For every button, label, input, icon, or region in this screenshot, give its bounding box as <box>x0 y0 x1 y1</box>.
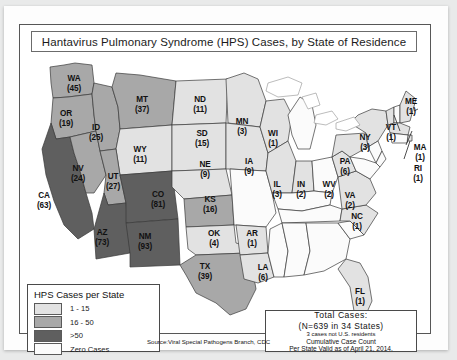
map-legend: HPS Cases per State 1 - 1516 - 50>50Zero… <box>27 284 160 352</box>
legend-label: Zero Cases <box>70 345 109 354</box>
state-label-sd: SD(15) <box>188 129 216 148</box>
legend-item: Zero Cases <box>34 344 153 355</box>
state-case-count: (1) <box>397 107 425 117</box>
state-label-az: AZ(73) <box>88 228 116 247</box>
state-case-count: (1) <box>259 139 287 149</box>
state-label-ar: AR(1) <box>238 229 266 248</box>
source-note: Source:Viral Special Pathogens Branch, C… <box>147 338 270 345</box>
state-code: CA <box>38 191 50 200</box>
state-case-count: (3) <box>228 127 256 137</box>
state-label-ia: IA(9) <box>235 157 263 176</box>
state-case-count: (1) <box>343 222 371 232</box>
totals-valid-date: Per State Valid as of April 21, 2014. <box>289 345 393 352</box>
state-code: VT <box>386 123 396 132</box>
totals-title: Total Cases: <box>314 310 367 320</box>
state-label-ny: NY(3) <box>351 133 379 152</box>
state-code: MA <box>414 143 427 152</box>
state-label-ca: CA(63) <box>30 191 58 210</box>
state-case-count: (6) <box>249 273 277 283</box>
legend-swatch <box>34 303 62 315</box>
state-case-count: (1) <box>404 174 432 184</box>
state-code: WY <box>134 145 147 154</box>
state-code: RI <box>414 164 422 173</box>
totals-count: (N=639 in 34 States) <box>298 321 383 331</box>
state-code: FL <box>355 287 365 296</box>
state-case-count: (63) <box>30 201 58 211</box>
state-code: NM <box>139 232 152 241</box>
legend-item: 1 - 15 <box>34 303 153 314</box>
legend-title: HPS Cases per State <box>34 289 153 300</box>
state-case-count: (2) <box>336 201 364 211</box>
legend-label: 16 - 50 <box>70 318 94 327</box>
state-case-count: (1) <box>406 153 434 163</box>
state-code: CO <box>152 190 164 199</box>
state-case-count: (4) <box>200 239 228 249</box>
state-label-nv: NV(24) <box>64 164 92 183</box>
map-title-box: Hantavirus Pulmonary Syndrome (HPS) Case… <box>31 31 417 52</box>
state-case-count: (39) <box>191 272 219 282</box>
state-code: WV <box>323 180 336 189</box>
state-case-count: (19) <box>52 119 80 129</box>
legend-item: >50 <box>34 330 153 341</box>
legend-swatch <box>34 316 62 328</box>
state-code: ND <box>194 95 206 104</box>
state-code: NE <box>199 160 210 169</box>
state-code: IA <box>245 157 253 166</box>
state-label-wi: WI(1) <box>259 129 287 148</box>
state-code: NC <box>351 212 363 221</box>
state-label-vt: VT(1) <box>377 123 405 142</box>
great-lake-1 <box>266 77 302 97</box>
state-code: AR <box>246 229 258 238</box>
state-code: UT <box>108 172 119 181</box>
state-code: NY <box>359 133 370 142</box>
state-case-count: (27) <box>99 182 127 192</box>
legend-rows: 1 - 1516 - 50>50Zero Cases <box>34 303 153 355</box>
state-case-count: (9) <box>235 167 263 177</box>
state-label-ks: KS(16) <box>196 195 224 214</box>
state-label-me: ME(1) <box>397 97 425 116</box>
state-case-count: (2) <box>287 190 315 200</box>
state-label-id: ID(25) <box>82 123 110 142</box>
state-case-count: (93) <box>131 242 159 252</box>
state-case-count: (45) <box>60 84 88 94</box>
state-code: NV <box>72 164 83 173</box>
legend-label: 1 - 15 <box>70 304 89 313</box>
state-case-count: (11) <box>186 105 214 115</box>
totals-box: Total Cases: (N=639 in 34 States) 3 case… <box>265 310 417 352</box>
state-case-count: (81) <box>144 200 172 210</box>
totals-note: 3 cases not U.S. residents <box>307 331 376 337</box>
state-label-tx: TX(39) <box>191 262 219 281</box>
state-label-nm: NM(93) <box>131 232 159 251</box>
state-code: LA <box>258 263 269 272</box>
state-code: WA <box>68 74 81 83</box>
state-code: ME <box>405 97 417 106</box>
state-case-count: (1) <box>377 133 405 143</box>
state-label-va: VA(2) <box>336 191 364 210</box>
state-code: PA <box>340 157 351 166</box>
state-case-count: (9) <box>191 170 219 180</box>
state-case-count: (37) <box>128 105 156 115</box>
state-label-pa: PA(6) <box>331 157 359 176</box>
state-code: SD <box>196 129 207 138</box>
state-case-count: (24) <box>64 174 92 184</box>
state-code: IL <box>273 180 280 189</box>
totals-cumulative: Cumulative Case Count <box>306 338 376 345</box>
state-case-count: (6) <box>331 167 359 177</box>
state-case-count: (25) <box>82 133 110 143</box>
state-case-count: (3) <box>351 143 379 153</box>
legend-swatch <box>34 330 62 342</box>
state-code: OK <box>208 229 220 238</box>
legend-label: >50 <box>70 331 83 340</box>
state-label-nc: NC(1) <box>343 212 371 231</box>
state-code: TX <box>200 262 210 271</box>
state-label-la: LA(6) <box>249 263 277 282</box>
state-code: AZ <box>97 228 108 237</box>
state-code: KS <box>204 195 215 204</box>
state-case-count: (15) <box>188 139 216 149</box>
legend-item: 16 - 50 <box>34 317 153 328</box>
state-code: VA <box>345 191 356 200</box>
state-case-count: (16) <box>196 205 224 215</box>
state-code: WI <box>268 129 278 138</box>
state-code: ID <box>92 123 100 132</box>
state-label-ok: OK(4) <box>200 229 228 248</box>
